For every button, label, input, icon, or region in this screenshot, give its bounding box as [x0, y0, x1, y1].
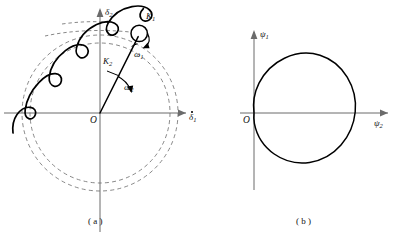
panel-b-y-axis-arrow [251, 30, 258, 39]
panel-a-k1-subscript: 1 [152, 15, 155, 22]
figure-root: δ2 δ1 O K1 K2 ω1 ω2 ( a ) ψ1 ψ2 O ( b ) [0, 0, 396, 240]
panel-b-y-axis-symbol: ψ [260, 29, 266, 39]
panel-b-caption: ( b ) [296, 216, 311, 226]
panel-a-epitrochoid-curve [13, 6, 152, 133]
panel-a-omega1-label: ω1 [134, 50, 144, 59]
panel-b-y-axis-subscript: 1 [266, 33, 269, 40]
panel-b-group [240, 30, 388, 190]
panel-a-x-axis-subscript: 1 [193, 116, 196, 123]
panel-a-omega1-subscript: 1 [140, 53, 143, 60]
panel-a-x-axis-dot-accent-icon [191, 111, 193, 113]
panel-a-omega2-tick [107, 71, 120, 76]
panel-a-y-axis-label: δ2 [105, 8, 112, 17]
panel-b-closed-curve [254, 53, 356, 163]
panel-a-origin-label: O [90, 116, 97, 126]
panel-a-k1-label: K1 [146, 12, 155, 21]
panel-b-origin-label: O [243, 116, 250, 126]
panel-a-y-axis-arrow [97, 8, 104, 17]
panel-a-radius-k2-line [100, 37, 138, 113]
panel-a-omega2-subscript: 2 [130, 86, 133, 93]
panel-a-rolling-circle-k1 [131, 25, 147, 41]
panel-a-x-axis-label: δ1 [189, 113, 196, 122]
panel-a-y-axis-subscript: 2 [109, 11, 112, 18]
figure-canvas [0, 0, 396, 240]
panel-b-x-axis-arrow [380, 110, 388, 117]
panel-b-y-axis-label: ψ1 [260, 30, 269, 39]
panel-b-x-axis-subscript: 2 [380, 122, 383, 129]
panel-a-k2-subscript: 2 [109, 60, 112, 67]
panel-a-caption: ( a ) [88, 216, 103, 226]
panel-a-omega2-label: ω2 [124, 83, 134, 92]
panel-a-k2-label: K2 [103, 57, 112, 66]
panel-b-x-axis-label: ψ2 [374, 119, 383, 128]
panel-a-x-axis-arrow [178, 110, 186, 117]
panel-b-x-axis-symbol: ψ [374, 118, 380, 128]
